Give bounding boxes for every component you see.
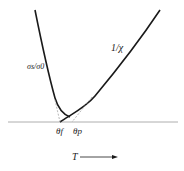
inverse-susceptibility-curve [60, 10, 160, 122]
theta-p-extrapolation [72, 97, 92, 122]
sigma-label: σs/σ0 [27, 63, 44, 71]
theta-f-label: θf [56, 127, 63, 136]
diagram-canvas [0, 0, 184, 171]
inverse-chi-label: 1/χ [111, 43, 123, 53]
theta-p-label: θp [73, 127, 82, 136]
temperature-label: T [72, 152, 78, 162]
arrow-head-icon [112, 155, 118, 159]
